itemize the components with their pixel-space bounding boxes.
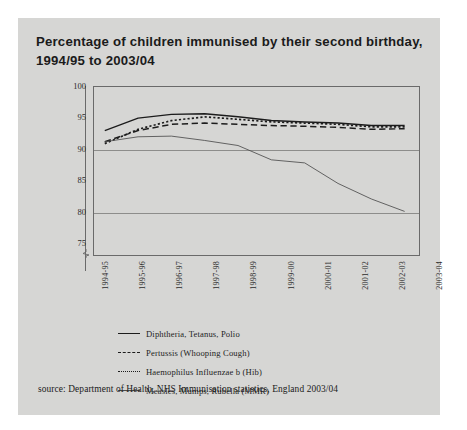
y-axis-break-icon <box>82 249 90 258</box>
legend-item-2: Haemophilus Influenzae b (Hib) <box>118 362 269 381</box>
chart-title-line-1: Percentage of children immunised by thei… <box>36 34 423 49</box>
chart-area: 1009590858075 <box>58 86 420 256</box>
chart-title: Percentage of children immunised by thei… <box>36 32 426 70</box>
y-tick-90: 90 <box>78 144 87 154</box>
x-tick-1997-98: 1997-98 <box>212 261 221 290</box>
x-tick-1995-96: 1995-96 <box>138 261 147 290</box>
legend-swatch-solid-icon <box>118 329 140 339</box>
figure-panel: Percentage of children immunised by thei… <box>18 18 440 415</box>
data-lines <box>94 87 419 255</box>
source-note: source: Department of Health, NHS Immuni… <box>38 384 338 394</box>
y-tick-80: 80 <box>78 207 87 217</box>
y-tick-75: 75 <box>78 238 87 248</box>
y-tick-85: 85 <box>78 175 87 185</box>
legend-label: Diphtheria, Tetanus, Polio <box>146 329 240 339</box>
chart-title-line-2: 1994/95 to 2003/04 <box>36 51 426 70</box>
x-tick-1999-00: 1999-00 <box>287 261 296 290</box>
x-tick-2000-01: 2000-01 <box>324 261 333 290</box>
legend-label: Haemophilus Influenzae b (Hib) <box>146 367 262 377</box>
y-tick-100: 100 <box>73 81 86 91</box>
x-tick-2001-02: 2001-02 <box>361 261 370 290</box>
legend-item-1: Pertussis (Whooping Cough) <box>118 343 269 362</box>
legend-swatch-dashed-icon <box>118 348 140 358</box>
plot-area <box>93 86 420 256</box>
x-tick-1994-95: 1994-95 <box>101 261 110 290</box>
y-tick-95: 95 <box>78 112 87 122</box>
series-line-3 <box>105 136 405 211</box>
legend-swatch-dotted-icon <box>118 367 140 377</box>
series-line-2 <box>105 117 405 144</box>
legend-item-0: Diphtheria, Tetanus, Polio <box>118 324 269 343</box>
x-tick-1998-99: 1998-99 <box>249 261 258 290</box>
x-tick-1996-97: 1996-97 <box>175 261 184 290</box>
legend-label: Pertussis (Whooping Cough) <box>146 348 250 358</box>
x-tick-2002-03: 2002-03 <box>398 261 407 290</box>
x-tick-2003-04: 2003-04 <box>435 261 444 290</box>
x-axis-labels: 1994-951995-961996-971997-981998-991999-… <box>93 261 420 319</box>
